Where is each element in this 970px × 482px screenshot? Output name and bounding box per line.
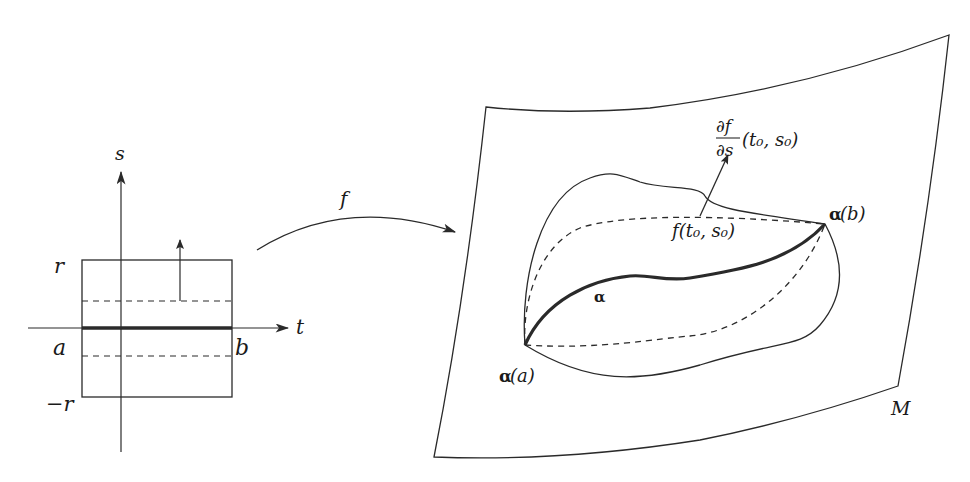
derivative-label: ∂f ∂s (t₀, s₀): [716, 116, 798, 160]
surface-label-M: M: [890, 397, 911, 419]
variation-diagram: s t r −r a b f M α α (a) α (b) f(t₀, s₀)…: [0, 0, 970, 482]
a-label: a: [53, 335, 66, 360]
r-label: r: [54, 254, 66, 278]
dashed-variation-lower: [525, 224, 825, 346]
map-f-label: f: [338, 187, 351, 211]
derivative-denominator: ∂s: [716, 140, 734, 160]
curve-alpha-label: α: [594, 288, 606, 306]
b-label: b: [235, 335, 249, 360]
derivative-numerator: ∂f: [716, 116, 734, 136]
alpha-b-arg: (b): [840, 203, 866, 224]
surface-boundary: [434, 35, 949, 458]
s-axis-label: s: [115, 142, 125, 164]
t-axis-label: t: [296, 315, 305, 339]
alpha-a-arg: (a): [510, 365, 535, 386]
derivative-args: (t₀, s₀): [742, 129, 798, 150]
point-label: f(t₀, s₀): [670, 220, 735, 241]
surface-M: [434, 35, 949, 458]
neg-r-label: −r: [46, 392, 76, 416]
curve-alpha: [525, 224, 825, 345]
alpha-b-label: α (b): [829, 203, 866, 224]
map-f-arrow: [257, 217, 455, 250]
alpha-a-label: α (a): [499, 365, 535, 386]
